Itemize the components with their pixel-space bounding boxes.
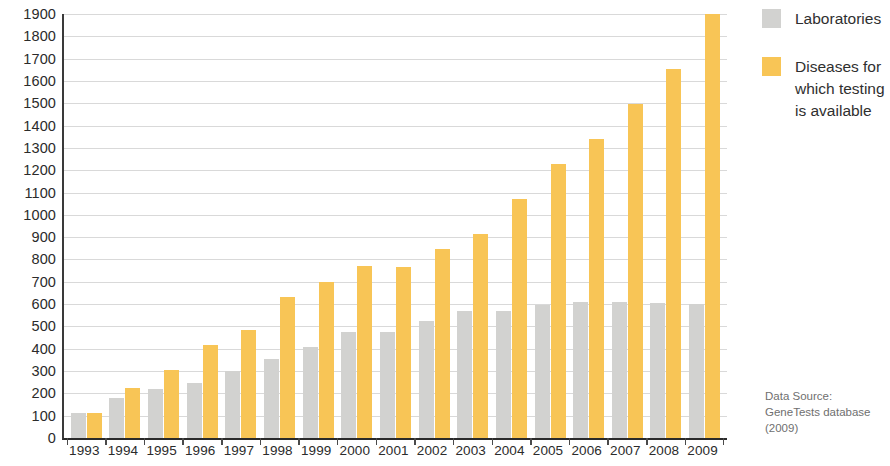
- bar-group-2004: [492, 14, 531, 438]
- source-line-1: Data Source:: [765, 388, 890, 404]
- y-axis-tick-1100: 1100: [4, 186, 56, 200]
- x-axis-label-2001: 2001: [374, 443, 413, 458]
- x-axis-label-2000: 2000: [335, 443, 374, 458]
- bar-diseases-1996: [203, 345, 218, 438]
- bar-diseases-1994: [125, 388, 140, 438]
- y-axis-tick-300: 300: [4, 364, 56, 378]
- bar-group-2009: [685, 14, 724, 438]
- y-axis-tick-0: 0: [4, 431, 56, 445]
- y-axis-tick-1400: 1400: [4, 119, 56, 133]
- y-axis-tick-200: 200: [4, 386, 56, 400]
- bar-diseases-2004: [512, 199, 527, 438]
- x-axis-label-1999: 1999: [297, 443, 336, 458]
- bar-group-1999: [299, 14, 338, 438]
- x-axis-label-2007: 2007: [606, 443, 645, 458]
- y-axis-tick-900: 900: [4, 230, 56, 244]
- bar-group-2000: [337, 14, 376, 438]
- bar-laboratories-1994: [109, 398, 124, 438]
- bar-laboratories-1997: [225, 371, 240, 438]
- bar-groups: [64, 14, 727, 438]
- y-axis-tick-800: 800: [4, 252, 56, 266]
- x-axis-label-2005: 2005: [529, 443, 568, 458]
- y-axis-tick-1000: 1000: [4, 208, 56, 222]
- x-axis-label-1996: 1996: [181, 443, 220, 458]
- plot-area: [62, 14, 727, 440]
- bar-laboratories-1995: [148, 389, 163, 438]
- bar-laboratories-2005: [535, 305, 550, 438]
- source-line-3: (2009): [765, 420, 890, 436]
- x-axis-label-2008: 2008: [645, 443, 684, 458]
- bar-group-1993: [67, 14, 106, 438]
- legend-swatch-laboratories: [762, 9, 781, 28]
- y-axis-tick-1200: 1200: [4, 163, 56, 177]
- bar-diseases-1997: [241, 330, 256, 438]
- y-axis-tick-1300: 1300: [4, 141, 56, 155]
- y-axis-tick-1500: 1500: [4, 96, 56, 110]
- bar-diseases-2001: [396, 267, 411, 438]
- bar-diseases-2000: [357, 266, 372, 438]
- y-axis-tick-1800: 1800: [4, 29, 56, 43]
- source-line-2: GeneTests database: [765, 404, 890, 420]
- chart-legend: Laboratories Diseases for which testing …: [762, 8, 890, 148]
- bar-laboratories-2007: [612, 302, 627, 438]
- x-axis-tick-labels: 1993199419951996199719981999200020012002…: [62, 443, 725, 458]
- bar-group-2008: [647, 14, 686, 438]
- bar-laboratories-2001: [380, 332, 395, 438]
- x-axis-label-1993: 1993: [65, 443, 104, 458]
- bar-group-1994: [106, 14, 145, 438]
- x-axis-label-1995: 1995: [142, 443, 181, 458]
- x-axis-label-2006: 2006: [567, 443, 606, 458]
- y-axis-tick-400: 400: [4, 342, 56, 356]
- bar-group-1998: [260, 14, 299, 438]
- bar-laboratories-1996: [187, 383, 202, 438]
- bar-group-2005: [531, 14, 570, 438]
- y-axis-tick-100: 100: [4, 409, 56, 423]
- bar-diseases-2006: [589, 139, 604, 438]
- source-note: Data Source: GeneTests database (2009): [765, 388, 890, 436]
- bar-diseases-1995: [164, 370, 179, 438]
- legend-item-diseases: Diseases for which testing is available: [762, 56, 890, 122]
- bar-group-1995: [144, 14, 183, 438]
- bar-chart: 1900180017001600150014001300120011001000…: [0, 0, 890, 466]
- legend-label-diseases: Diseases for which testing is available: [795, 56, 890, 122]
- y-axis-tick-1600: 1600: [4, 74, 56, 88]
- bar-laboratories-2000: [341, 332, 356, 438]
- bar-diseases-2005: [551, 164, 566, 438]
- bar-group-2007: [608, 14, 647, 438]
- bar-laboratories-2003: [457, 311, 472, 438]
- bar-laboratories-2002: [419, 321, 434, 438]
- bar-group-2002: [415, 14, 454, 438]
- bar-laboratories-2009: [689, 304, 704, 438]
- legend-label-laboratories: Laboratories: [795, 8, 881, 30]
- legend-item-laboratories: Laboratories: [762, 8, 890, 30]
- bar-group-2001: [376, 14, 415, 438]
- y-axis-tick-500: 500: [4, 319, 56, 333]
- x-axis-label-2004: 2004: [490, 443, 529, 458]
- bar-diseases-2008: [666, 69, 681, 438]
- x-axis-label-2003: 2003: [451, 443, 490, 458]
- bar-laboratories-2004: [496, 311, 511, 438]
- x-axis-label-1998: 1998: [258, 443, 297, 458]
- bar-group-2006: [569, 14, 608, 438]
- x-axis-label-2002: 2002: [413, 443, 452, 458]
- bar-group-1996: [183, 14, 222, 438]
- bar-laboratories-2006: [573, 302, 588, 438]
- bar-laboratories-1993: [71, 413, 86, 438]
- x-axis-label-2009: 2009: [683, 443, 722, 458]
- y-axis-tick-1700: 1700: [4, 52, 56, 66]
- bar-diseases-2003: [473, 234, 488, 438]
- y-axis-tick-600: 600: [4, 297, 56, 311]
- x-axis-label-1994: 1994: [104, 443, 143, 458]
- bar-laboratories-2008: [650, 303, 665, 438]
- bar-diseases-1993: [87, 413, 102, 438]
- bar-diseases-1998: [280, 297, 295, 438]
- bar-group-2003: [453, 14, 492, 438]
- y-axis-tick-1900: 1900: [4, 7, 56, 21]
- y-axis-tick-labels: 1900180017001600150014001300120011001000…: [0, 0, 56, 440]
- x-axis-label-1997: 1997: [220, 443, 259, 458]
- bar-laboratories-1998: [264, 359, 279, 438]
- bar-diseases-2007: [628, 104, 643, 438]
- bar-diseases-2009: [705, 14, 720, 438]
- bar-diseases-2002: [435, 249, 450, 438]
- y-axis-tick-700: 700: [4, 275, 56, 289]
